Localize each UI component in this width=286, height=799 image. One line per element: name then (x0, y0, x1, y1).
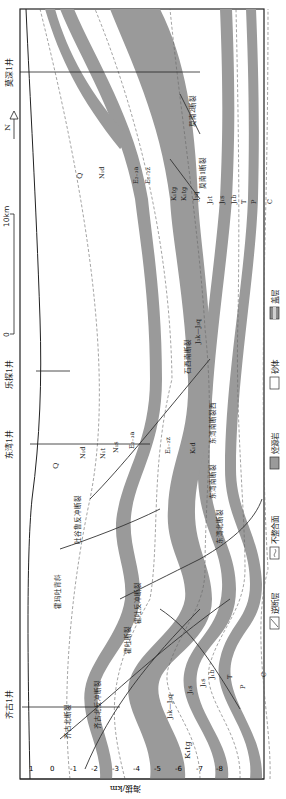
stratum-label: P (250, 199, 258, 204)
stratum-label: N₁d (79, 447, 87, 459)
stratum-label: Q (51, 462, 60, 469)
tick-label: -3 (112, 765, 119, 773)
geologic-cross-section: 齐古1井 东湾1井 乐探1井 莫深1井 0 10km N K₁tg (0, 0, 286, 799)
cross-section-svg: 齐古1井 东湾1井 乐探1井 莫深1井 0 10km N K₁tg (0, 0, 286, 799)
legend-item-caprock: 盖层 (270, 289, 280, 319)
legend-item-source-rock: 烃源岩 (270, 432, 280, 469)
north-arrow: N (3, 111, 18, 139)
stratum-label: N₁t (99, 448, 107, 459)
fault-label: 齐古北反冲断裂 (93, 680, 102, 729)
stratum-label: N₁s (112, 441, 120, 453)
legend-item-sandbody: 砂体 (270, 359, 280, 389)
well-labels: 齐古1井 东湾1井 乐探1井 莫深1井 (4, 58, 14, 719)
stratum-label: K₁d (189, 442, 197, 454)
legend: 逆断层 不整合面 烃源岩 砂体 盖层 (270, 289, 280, 629)
tick-label: -1 (70, 765, 77, 773)
scale-bar: 0 10km (2, 206, 14, 337)
legend-label: 砂体 (270, 359, 280, 374)
scale-end-label: 10km (2, 206, 11, 227)
well-label-letan1: 乐探1井 (4, 360, 14, 389)
figure-stage: 齐古1井 东湾1井 乐探1井 莫深1井 0 10km N K₁tg (0, 0, 286, 799)
legend-item-unconformity: 不整合面 (270, 515, 280, 559)
fault-label: 东湾南断裂西 (208, 402, 217, 444)
compass-label: N (3, 124, 12, 131)
fault-label: 东湾南断裂 (208, 464, 217, 499)
stratum-label: N₁d (98, 167, 106, 179)
elevation-axis-title: 海拔/km (110, 784, 141, 795)
fault-label: 霍吐断裂 (123, 626, 132, 654)
tick-label: 1 (29, 765, 33, 773)
stratum-label: J₃k—J₃q (166, 694, 174, 720)
well-label-qigu1: 齐古1井 (4, 690, 14, 719)
fault-label: 吐谷鲁反冲断裂 (73, 495, 82, 544)
tick-label: -5 (154, 765, 161, 773)
stratum-label: J₁b (208, 670, 216, 680)
stratum-label: C (266, 199, 274, 204)
stratum-label: E₁₋₂z (144, 167, 152, 184)
tick-label: -6 (175, 765, 182, 773)
compass-triangle-icon (10, 111, 18, 119)
stratum-label: T (240, 199, 248, 204)
legend-label: 逆断层 (270, 592, 280, 614)
stratum-label: J₃k—J₃q (194, 319, 202, 345)
fault-label: 齐古北断裂 (63, 704, 72, 739)
elevation-tick-row: 1 0 -1 -2 -3 -4 -5 -6 -7 -8 (24, 765, 244, 779)
fault-label: 霍玛吐背斜 (53, 574, 62, 609)
stratum-label: E₁₋₂z (164, 437, 172, 454)
tick-label: -4 (133, 765, 140, 773)
fault-label: 霍吐反冲断裂 (133, 582, 142, 624)
stratum-label: P (239, 684, 247, 689)
tick-label: 0 (50, 765, 54, 773)
stratum-label: J₁s (199, 678, 207, 688)
stratum-label: J₁s (186, 685, 194, 695)
well-label-moshen1: 莫深1井 (4, 58, 14, 87)
legend-label: 盖层 (270, 289, 280, 304)
stratum-label: E₂₋₃a (132, 167, 140, 184)
stratum-label: K₁tg (170, 187, 178, 201)
fault-label: 东湾北断裂 (215, 509, 224, 544)
stratum-label: K₁tg (180, 187, 188, 201)
legend-label: 烃源岩 (270, 432, 280, 454)
fault-label: 石西南断裂 (183, 339, 192, 374)
tick-label: -7 (196, 765, 203, 773)
stratum-label: J₃q (192, 192, 200, 202)
stratum-label: T (226, 674, 234, 679)
fault-label: 莫南1断裂 (198, 157, 207, 189)
stratum-label: Q (75, 172, 84, 179)
stratum-label: J₁b (230, 195, 238, 205)
legend-item-reverse-fault: 逆断层 (270, 592, 280, 629)
stratum-label: J₁s (218, 195, 226, 205)
stratum-label: E₂₋₃a (128, 432, 136, 449)
stratum-label: J₂t (206, 196, 214, 205)
stratum-label: C (260, 672, 268, 677)
tick-label: -2 (91, 765, 98, 773)
legend-label: 不整合面 (270, 515, 280, 544)
fault-label: 莫南2断裂 (188, 95, 197, 127)
tick-label: -8 (216, 765, 223, 773)
stratum-label: K₁tg (183, 741, 192, 759)
scale-start-label: 0 (2, 332, 11, 337)
well-label-dongwan1: 东湾1井 (4, 430, 14, 459)
